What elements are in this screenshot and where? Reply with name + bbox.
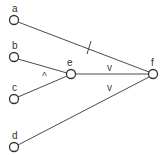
graph-diagram: ^ v v a b c d e f [0,0,167,155]
graph-svg: ^ v v a b c d e f [0,0,167,155]
label-e: e [67,57,73,68]
node-f[interactable] [149,70,158,79]
label-b: b [12,40,18,51]
edge-d-f [18,77,149,145]
label-a: a [12,3,18,14]
node-a[interactable] [10,16,19,25]
node-b[interactable] [10,53,19,62]
node-c[interactable] [10,95,19,104]
marker-v-lower: v [107,82,112,93]
label-f: f [151,57,154,68]
node-e[interactable] [67,70,76,79]
marker-v-upper: v [107,62,112,73]
label-d: d [12,130,18,141]
marker-caret-up: ^ [42,71,47,82]
label-c: c [12,82,17,93]
node-d[interactable] [10,143,19,152]
slash-marker [87,41,91,54]
